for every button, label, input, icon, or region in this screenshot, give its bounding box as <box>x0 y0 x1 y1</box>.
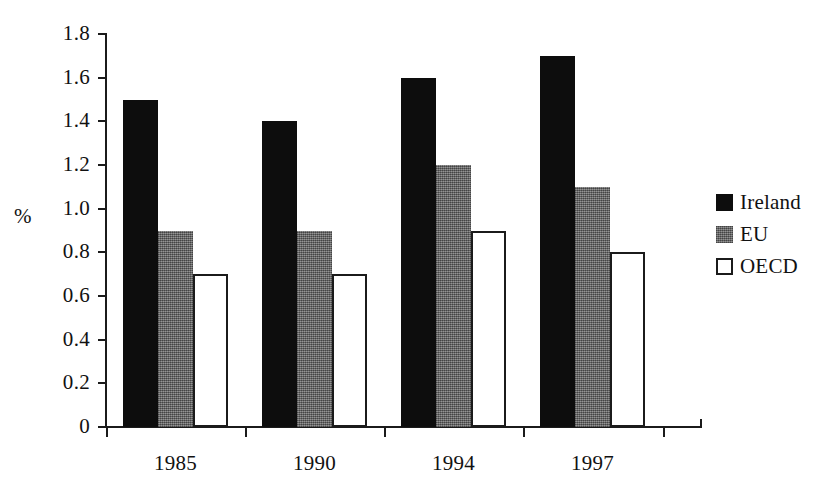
bar-oecd-1985 <box>193 274 228 427</box>
bar-chart: % 1.81.61.41.21.00.80.60.40.20 198519901… <box>0 0 825 494</box>
bar-eu-1997 <box>575 187 610 427</box>
y-axis-tick <box>98 339 106 341</box>
bar-eu-1990 <box>297 231 332 428</box>
bar-ireland-1997 <box>540 56 575 427</box>
y-axis-tick <box>98 33 106 35</box>
y-axis-tick <box>98 426 106 428</box>
bar-ireland-1994 <box>401 78 436 427</box>
x-axis-tick-label: 1990 <box>255 452 375 474</box>
y-axis-tick-label: 0.8 <box>30 241 90 262</box>
legend-item-ireland[interactable]: Ireland <box>716 186 801 218</box>
y-axis-tick <box>98 208 106 210</box>
legend-item-oecd[interactable]: OECD <box>716 250 801 282</box>
bar-oecd-1997 <box>610 252 645 427</box>
y-axis-tick <box>98 77 106 79</box>
y-axis-tick-label: 1.6 <box>30 67 90 88</box>
chart-legend: IrelandEUOECD <box>716 186 801 282</box>
x-axis-tick-label: 1994 <box>394 452 514 474</box>
y-axis-title: % <box>14 206 32 227</box>
y-axis-tick <box>98 120 106 122</box>
x-axis-tick <box>523 427 525 437</box>
bar-eu-1994 <box>436 165 471 427</box>
x-axis-tick <box>384 427 386 437</box>
x-axis-tick <box>106 427 108 437</box>
legend-item-eu[interactable]: EU <box>716 218 801 250</box>
legend-item-label: EU <box>740 224 768 245</box>
x-axis-end-cap <box>700 419 702 428</box>
legend-item-label: OECD <box>740 256 798 277</box>
y-axis-tick-label: 1.0 <box>30 198 90 219</box>
gray-halftone-swatch <box>716 226 733 243</box>
bar-oecd-1990 <box>332 274 367 427</box>
y-axis-tick <box>98 164 106 166</box>
x-axis-tick-label: 1985 <box>116 452 236 474</box>
y-axis-tick <box>98 251 106 253</box>
y-axis-tick-label: 0.2 <box>30 372 90 393</box>
bar-ireland-1990 <box>262 121 297 427</box>
x-axis-tick-label: 1997 <box>533 452 653 474</box>
y-axis-tick-label: 0.6 <box>30 285 90 306</box>
y-axis-tick-label: 1.4 <box>30 110 90 131</box>
bar-eu-1985 <box>158 231 193 428</box>
y-axis-tick-label: 0.4 <box>30 329 90 350</box>
y-axis-tick <box>98 382 106 384</box>
y-axis-tick-label: 1.2 <box>30 154 90 175</box>
solid-black-swatch <box>716 194 733 211</box>
y-axis-tick-label: 1.8 <box>30 23 90 44</box>
x-axis-tick <box>663 427 665 437</box>
bar-oecd-1994 <box>471 231 506 428</box>
x-axis-tick <box>245 427 247 437</box>
legend-item-label: Ireland <box>740 192 801 213</box>
y-axis-tick <box>98 295 106 297</box>
y-axis-tick-label: 0 <box>30 416 90 437</box>
plot-area <box>107 34 700 427</box>
white-outlined-swatch <box>716 258 733 275</box>
bar-ireland-1985 <box>123 100 158 428</box>
